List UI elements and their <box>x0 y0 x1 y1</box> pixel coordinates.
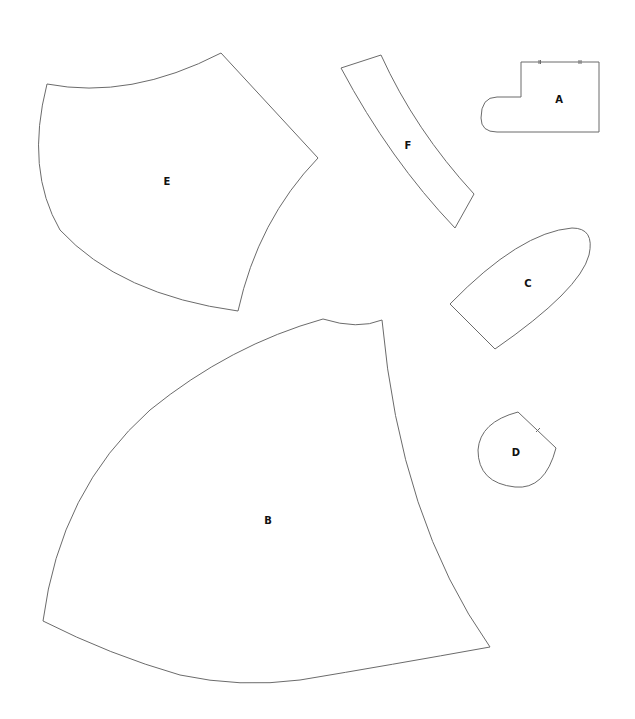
piece-a-outline <box>481 62 599 132</box>
piece-b-label: B <box>264 515 272 526</box>
pattern-piece-a[interactable]: A <box>481 60 599 132</box>
piece-a-label: A <box>555 94 563 105</box>
pattern-piece-c[interactable]: C <box>450 228 590 349</box>
pattern-piece-e[interactable]: E <box>39 53 318 311</box>
pattern-sheet: E F A C D B <box>0 0 635 719</box>
piece-b-outline <box>43 319 490 683</box>
pattern-piece-b[interactable]: B <box>43 319 490 683</box>
pattern-piece-f[interactable]: F <box>341 55 474 228</box>
piece-c-label: C <box>524 278 531 289</box>
piece-f-label: F <box>405 140 412 151</box>
piece-e-label: E <box>164 176 171 187</box>
piece-c-outline <box>450 228 590 349</box>
piece-e-outline <box>39 53 318 311</box>
pattern-piece-d[interactable]: D <box>478 412 556 487</box>
piece-d-label: D <box>512 447 520 458</box>
